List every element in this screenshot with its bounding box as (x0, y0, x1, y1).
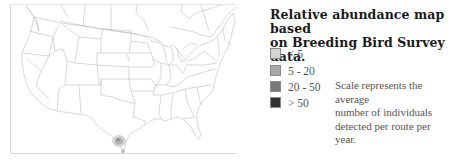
abundance-shading (112, 135, 126, 153)
legend-item-5-20: 5 - 20 (270, 64, 315, 77)
legend-label: > 50 (288, 97, 309, 109)
us-map-outline (10, 4, 236, 154)
legend-swatch (270, 65, 281, 76)
legend-item-gt50: > 50 (270, 96, 309, 109)
note-line-1: Scale represents the average (335, 79, 451, 106)
legend-swatch (270, 48, 281, 59)
legend-swatch (270, 81, 281, 92)
abundance-map (10, 4, 236, 154)
legend-item-20-50: 20 - 50 (270, 80, 321, 93)
legend-item-lt5: < 5 (270, 47, 303, 60)
note-line-3: detected per route per year. (335, 120, 451, 147)
note-line-2: number of individuals (335, 106, 451, 120)
title-line-1: Relative abundance map based (270, 8, 450, 36)
legend-swatch (270, 97, 281, 108)
legend-label: < 5 (288, 48, 303, 60)
scale-note: Scale represents the average number of i… (335, 79, 451, 147)
legend-label: 5 - 20 (288, 65, 315, 77)
legend-label: 20 - 50 (288, 81, 321, 93)
